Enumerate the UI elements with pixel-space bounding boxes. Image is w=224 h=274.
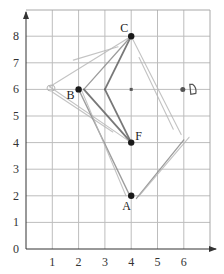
y-tick-label: 7 <box>13 56 19 70</box>
small-marker <box>130 88 133 91</box>
coordinate-grid-diagram: 123456 012345678 ABCF <box>0 0 224 274</box>
pencil-stroke <box>131 36 181 134</box>
x-tick-label: 4 <box>128 255 134 269</box>
plot-border <box>26 10 210 249</box>
point-f: F <box>128 129 142 146</box>
x-tick-label: 3 <box>102 255 108 269</box>
point-dot <box>75 86 81 92</box>
x-axis-tick-labels: 123456 <box>49 255 187 269</box>
point-b: B <box>67 86 82 102</box>
point-dot <box>180 87 185 92</box>
x-tick-label: 2 <box>76 255 82 269</box>
point-label: F <box>135 129 142 143</box>
x-tick-label: 1 <box>49 255 55 269</box>
pencil-strokes <box>47 36 189 198</box>
point-dot <box>128 139 134 145</box>
x-tick-label: 5 <box>155 255 161 269</box>
y-tick-label: 1 <box>13 215 19 229</box>
point-label: B <box>67 88 75 102</box>
point-dot <box>128 33 134 39</box>
x-tick-label: 6 <box>181 255 187 269</box>
pencil-stroke <box>139 137 189 196</box>
y-tick-label: 3 <box>13 162 19 176</box>
grid-lines <box>26 10 210 249</box>
pencil-stroke <box>139 57 173 129</box>
y-tick-label: 5 <box>13 109 19 123</box>
y-tick-label: 6 <box>13 82 19 96</box>
point-label: A <box>122 199 131 213</box>
y-tick-label: 2 <box>13 189 19 203</box>
small-markers <box>130 88 133 91</box>
y-axis-tick-labels: 012345678 <box>13 29 19 256</box>
y-tick-label: 4 <box>13 136 19 150</box>
point-label: C <box>120 21 128 35</box>
y-tick-label: 0 <box>13 242 19 256</box>
y-tick-label: 8 <box>13 29 19 43</box>
